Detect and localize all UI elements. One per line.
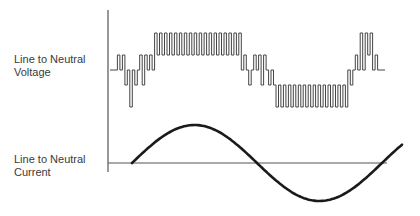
waveform-diagram xyxy=(0,0,420,216)
voltage-pwm-waveform xyxy=(110,33,385,107)
